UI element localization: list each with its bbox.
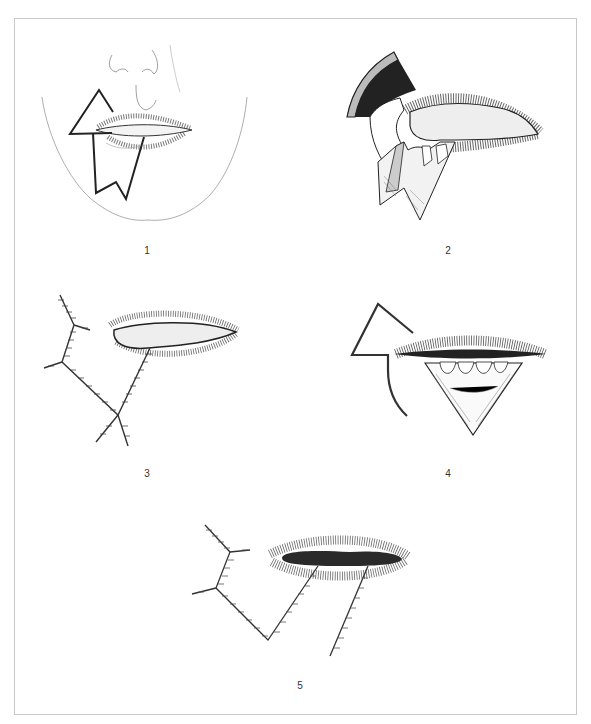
panel-label: 4 (438, 468, 458, 479)
wedge-excision-illustration (300, 270, 591, 490)
face-flap-illustration (0, 0, 300, 270)
rotated-flap-illustration (300, 0, 591, 270)
panel-label: 2 (438, 245, 458, 256)
panel-1: 1 (0, 0, 300, 270)
panel-label: 5 (290, 680, 310, 691)
panel-4: 4 (300, 270, 591, 490)
panel-label: 1 (137, 245, 157, 256)
panel-3: 3 (0, 270, 300, 490)
panel-2: 2 (300, 0, 591, 270)
panel-5: 5 (150, 490, 450, 724)
panel-label: 3 (137, 468, 157, 479)
sutured-closure-illustration (0, 270, 300, 490)
